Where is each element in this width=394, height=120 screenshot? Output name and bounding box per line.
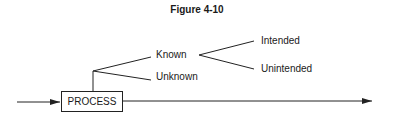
unintended-branch bbox=[199, 55, 254, 69]
unknown-branch bbox=[93, 71, 151, 80]
figure-title: Figure 4-10 bbox=[0, 4, 394, 15]
intended-branch bbox=[199, 41, 254, 55]
process-label: PROCESS bbox=[68, 96, 117, 107]
unknown-label: Unknown bbox=[156, 71, 198, 82]
diagram-lines bbox=[0, 0, 394, 120]
process-box: PROCESS bbox=[61, 91, 123, 112]
intended-label: Intended bbox=[261, 35, 300, 46]
known-branch bbox=[93, 57, 151, 71]
known-label: Known bbox=[156, 49, 187, 60]
unintended-label: Unintended bbox=[261, 63, 312, 74]
